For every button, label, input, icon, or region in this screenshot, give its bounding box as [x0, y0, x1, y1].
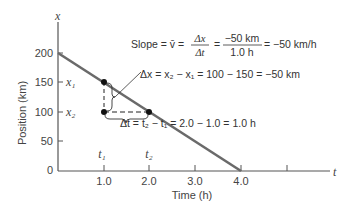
point-x1	[101, 79, 107, 85]
slope-lhs: Slope = v̄ =	[131, 38, 184, 50]
y-axis-symbol: x	[54, 9, 61, 23]
x-axis-label: Time (h)	[172, 189, 213, 201]
slope-num2: −50 km	[225, 32, 260, 44]
slope-annotation: Slope = v̄ = Δx Δt = −50 km 1.0 h = −50 …	[131, 32, 317, 58]
x-tick-4: 4.0	[233, 175, 248, 187]
delta-x-leader	[115, 72, 141, 97]
slope-result: = −50 km/h	[264, 38, 317, 50]
y-tick-100: 100	[35, 106, 53, 118]
x-tick-2: 2.0	[141, 175, 156, 187]
t2-label: t₂	[145, 147, 153, 161]
slope-den1: Δt	[194, 47, 205, 58]
y-tick-200: 200	[35, 47, 53, 59]
svg-text:=: =	[214, 38, 220, 50]
x1-label: x₁	[65, 75, 76, 89]
y-ticks: 200 150 100 50 0	[35, 47, 63, 176]
x-tick-1: 1.0	[96, 175, 111, 187]
point-x2	[146, 109, 152, 115]
delta-t-equation: Δt = t₂ − t₁ = 2.0 − 1.0 = 1.0 h	[120, 117, 256, 129]
x-tick-3: 3.0	[187, 175, 202, 187]
delta-x-equation: Δx = x₂ − x₁ = 100 − 150 = −50 km	[140, 68, 300, 80]
y-tick-0: 0	[47, 164, 53, 176]
position-time-chart: x t 200 150 100 50 0 Position (km) 1.0 2…	[0, 0, 350, 212]
point-corner	[101, 109, 107, 115]
t1-label: t₁	[98, 147, 106, 161]
slope-num1: Δx	[194, 33, 206, 44]
x-axis-symbol: t	[333, 165, 337, 179]
y-tick-50: 50	[41, 135, 53, 147]
chart-svg: x t 200 150 100 50 0 Position (km) 1.0 2…	[0, 0, 350, 212]
slope-den2: 1.0 h	[230, 46, 254, 58]
y-tick-150: 150	[35, 76, 53, 88]
y-axis-label: Position (km)	[16, 81, 28, 145]
x-ticks: 1.0 2.0 3.0 4.0	[96, 165, 287, 187]
x2-label: x₂	[65, 105, 76, 119]
